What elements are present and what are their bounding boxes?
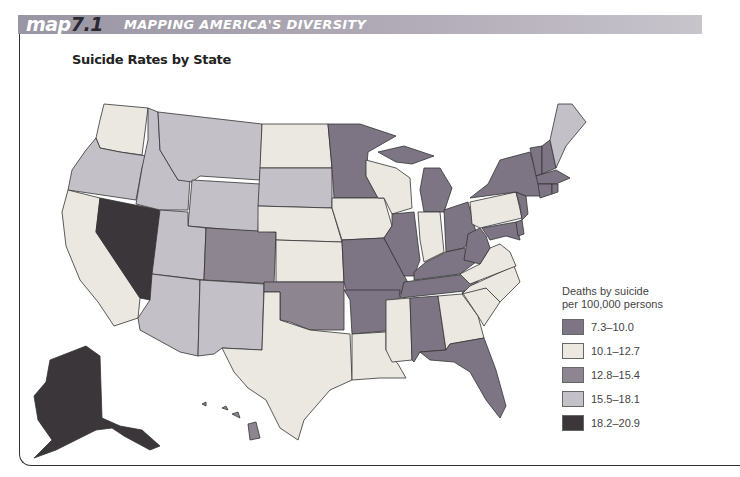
- state-HI: [202, 402, 260, 440]
- state-WY: [188, 180, 260, 232]
- legend-item: 10.1–12.7: [562, 343, 692, 359]
- state-WA: [96, 104, 148, 155]
- state-RI: [552, 184, 558, 194]
- state-NM: [198, 280, 264, 356]
- state-ME: [550, 104, 586, 168]
- legend-item: 15.5–18.1: [562, 391, 692, 407]
- legend-swatch: [562, 343, 584, 359]
- state-ND: [260, 124, 332, 168]
- state-CT: [538, 184, 552, 198]
- legend-item: 12.8–15.4: [562, 367, 692, 383]
- legend-swatch: [562, 367, 584, 383]
- legend-swatch: [562, 415, 584, 431]
- legend-item: 7.3–10.0: [562, 319, 692, 335]
- state-MI-upper: [378, 146, 434, 164]
- state-KS: [276, 240, 344, 282]
- legend-swatch: [562, 319, 584, 335]
- state-SD: [258, 168, 332, 208]
- state-MI: [420, 168, 452, 212]
- state-CO: [204, 228, 276, 284]
- state-MS: [386, 298, 412, 362]
- map-legend: Deaths by suicide per 100,000 persons 7.…: [562, 285, 692, 431]
- state-IA: [332, 198, 392, 240]
- legend-title: Deaths by suicide per 100,000 persons: [562, 285, 692, 311]
- state-AK: [34, 346, 160, 458]
- state-MT: [158, 112, 262, 182]
- legend-swatch: [562, 391, 584, 407]
- state-IN: [418, 212, 444, 262]
- legend-item: 18.2–20.9: [562, 415, 692, 431]
